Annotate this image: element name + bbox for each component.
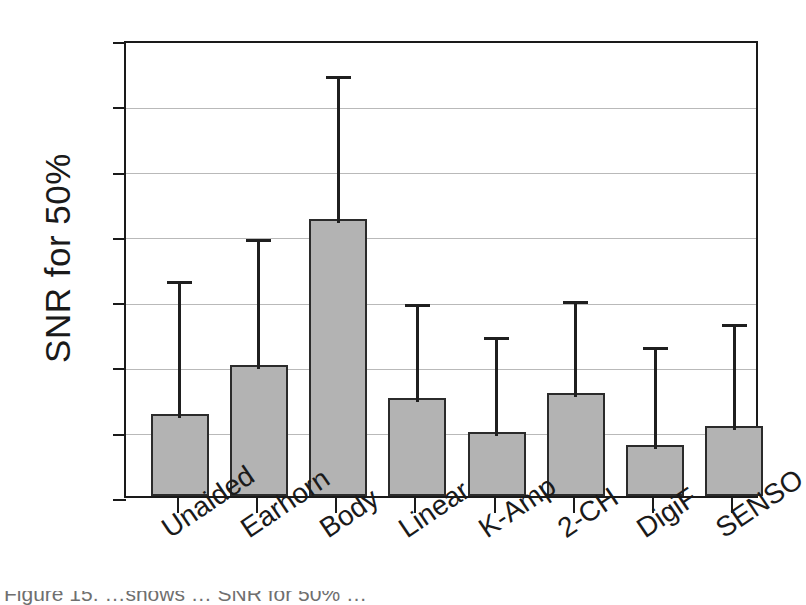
y-axis-title: SNR for 50% — [38, 78, 78, 438]
y-axis-tick — [113, 42, 126, 44]
caption-text: Figure 15. …shows … SNR for 50% … — [4, 591, 367, 605]
bar-senso — [705, 426, 763, 496]
y-axis-tick — [113, 107, 126, 109]
y-axis-tick — [113, 368, 126, 370]
error-bar-cap — [563, 301, 588, 304]
bar-body — [309, 219, 367, 496]
y-axis-tick — [113, 173, 126, 175]
error-bar-earhorn — [257, 239, 260, 370]
error-bar-cap — [326, 76, 351, 79]
error-bar-cap — [405, 304, 430, 307]
error-bar-cap — [246, 239, 271, 242]
error-bar-body — [337, 76, 340, 223]
plot-area: 02468101214 — [124, 41, 758, 498]
caption-fragment: Figure 15. …shows … SNR for 50% … — [0, 591, 786, 605]
y-axis-tick — [113, 303, 126, 305]
error-bar-cap — [643, 347, 668, 350]
bar-linear — [388, 398, 446, 496]
gridline — [126, 369, 756, 370]
error-bar-2-ch — [574, 301, 577, 397]
x-axis-area: UnaidedEarhornBodyLinearK-Amp2-CHDigiFSE… — [124, 498, 758, 605]
error-bar-cap — [484, 337, 509, 340]
gridline — [126, 173, 756, 174]
bar-k-amp — [468, 432, 526, 496]
error-bar-cap — [722, 324, 747, 327]
error-bar-linear — [416, 304, 419, 402]
gridline — [126, 108, 756, 109]
error-bar-k-amp — [495, 337, 498, 437]
error-bar-senso — [733, 324, 736, 430]
bar-unaided — [151, 414, 209, 496]
y-axis-tick — [113, 238, 126, 240]
gridline — [126, 304, 756, 305]
error-bar-unaided — [178, 281, 181, 418]
bar-2-ch — [547, 393, 605, 496]
gridline — [126, 238, 756, 239]
y-axis-tick — [113, 434, 126, 436]
error-bar-cap — [167, 281, 192, 284]
error-bar-digif — [654, 347, 657, 450]
